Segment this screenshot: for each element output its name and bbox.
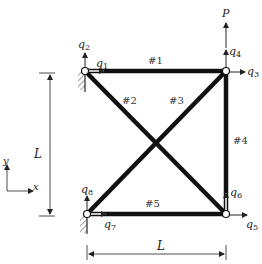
- q8-label: q8: [81, 183, 93, 197]
- node-2: [223, 68, 230, 75]
- q2-label: q2: [78, 38, 90, 52]
- height-dimension: [39, 73, 55, 216]
- truss-diagram: q1 q2 q3 q4 q5 q6 q7 q8 P #1 #2 #3 #4 #5…: [0, 0, 262, 264]
- q4-label: q4: [229, 45, 241, 59]
- q1-label: q1: [96, 57, 108, 71]
- q7-label: q7: [104, 218, 116, 232]
- load-p-label: P: [221, 7, 230, 20]
- members: [85, 71, 226, 214]
- member-5-label: #5: [145, 198, 160, 209]
- member-1-label: #1: [148, 55, 163, 66]
- y-axis-label: y: [2, 155, 9, 166]
- node-1: [82, 68, 89, 75]
- x-axis-label: x: [33, 181, 39, 192]
- node-3: [223, 211, 230, 218]
- height-dimension-label: L: [33, 147, 42, 161]
- q3-label: q3: [247, 65, 259, 79]
- member-2-label: #2: [122, 95, 137, 106]
- q6-label: q6: [230, 186, 242, 200]
- member-3-label: #3: [169, 95, 184, 106]
- q5-label: q5: [246, 218, 258, 232]
- node-4: [84, 211, 91, 218]
- coordinate-axes: [7, 165, 33, 191]
- width-dimension-label: L: [156, 239, 165, 253]
- member-4-label: #4: [233, 135, 248, 146]
